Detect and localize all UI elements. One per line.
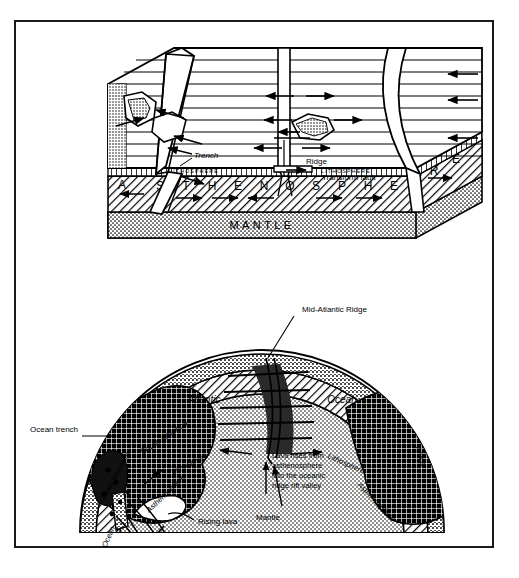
figure-frame: MANTLE A S T H E N O S P H E [14, 20, 494, 548]
svg-text:T: T [182, 179, 190, 193]
svg-text:A: A [118, 178, 126, 192]
svg-text:E: E [234, 179, 242, 193]
rising-lava-label: Rising lava [198, 517, 238, 526]
svg-text:ridge rift valley: ridge rift valley [272, 481, 321, 490]
upper-block-diagram: MANTLE A S T H E N O S P H E [16, 26, 492, 266]
ridge-label: Ridge [306, 157, 327, 166]
svg-text:E: E [390, 179, 398, 193]
svg-text:N: N [260, 179, 269, 193]
svg-text:H: H [208, 179, 217, 193]
lower-earth-cross-section: Mid-Atlantic Ridge Atlantic Ocean South … [16, 258, 492, 548]
globe-mantle-label: Mantle [256, 513, 281, 522]
trench-label: Trench [194, 151, 219, 160]
mid-atlantic-ridge-label: Mid-Atlantic Ridge [302, 305, 367, 314]
svg-text:into the oceanic: into the oceanic [272, 471, 325, 480]
atlantic-label: Atlantic [187, 394, 221, 405]
lava-caption: Lava rises from asthenosphere into the o… [272, 451, 325, 490]
ocean-label: Ocean [327, 394, 357, 405]
svg-text:Lava rises from: Lava rises from [272, 451, 324, 460]
transform-fault-label: Transform fault [322, 173, 376, 182]
block-mantle-label: MANTLE [229, 219, 294, 231]
ocean-trench-label-line1: Ocean trench [30, 425, 78, 434]
figure-page: MANTLE A S T H E N O S P H E [0, 0, 519, 578]
svg-text:S: S [312, 179, 320, 193]
svg-text:asthenosphere: asthenosphere [272, 461, 322, 470]
